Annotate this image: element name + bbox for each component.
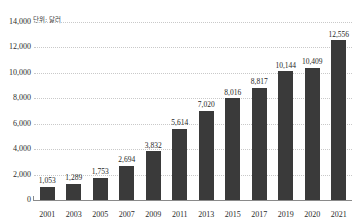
x-slot: 2009 (140, 203, 167, 221)
y-tick-label: 0 (27, 196, 31, 204)
bar[interactable] (40, 187, 55, 200)
bar-slot: 1,289 (61, 22, 88, 200)
bar-value-label: 1,053 (39, 177, 56, 185)
x-tick-label: 2011 (172, 210, 188, 219)
bar[interactable] (119, 166, 134, 200)
x-axis: 2001200320052007200920112013201520172019… (34, 203, 352, 221)
bar-value-label: 7,020 (198, 101, 215, 109)
bar[interactable] (225, 98, 240, 200)
x-slot: 2020 (299, 203, 326, 221)
x-tick-label: 2013 (198, 210, 214, 219)
bar-slot: 1,053 (34, 22, 61, 200)
x-slot: 2005 (87, 203, 114, 221)
bars-container: 1,0531,2891,7532,6943,8325,6147,0208,016… (34, 22, 352, 200)
y-tick-label: 12,000 (9, 43, 31, 51)
bar-slot: 8,016 (220, 22, 247, 200)
y-axis-line (33, 196, 34, 201)
x-slot: 2001 (34, 203, 61, 221)
bar-value-label: 8,817 (251, 78, 268, 86)
bar-value-label: 10,409 (302, 58, 323, 66)
bar-slot: 10,409 (299, 22, 326, 200)
bar-slot: 7,020 (193, 22, 220, 200)
bar-slot: 10,144 (273, 22, 300, 200)
bar[interactable] (278, 71, 293, 200)
x-tick-label: 2003 (66, 210, 82, 219)
bar-value-label: 12,556 (328, 31, 349, 39)
x-slot: 2013 (193, 203, 220, 221)
x-tick-label: 2007 (119, 210, 135, 219)
bar-value-label: 1,289 (65, 174, 82, 182)
bar[interactable] (172, 129, 187, 200)
bar-slot: 12,556 (326, 22, 353, 200)
y-tick-label: 6,000 (13, 120, 31, 128)
y-axis: 02,0004,0006,0008,00010,00012,00014,000 (0, 22, 31, 200)
bar-value-label: 10,144 (275, 62, 296, 70)
bar-value-label: 2,694 (118, 156, 135, 164)
bar[interactable] (66, 184, 81, 200)
x-slot: 2019 (273, 203, 300, 221)
bar-slot: 3,832 (140, 22, 167, 200)
x-tick-label: 2021 (331, 210, 347, 219)
bar-slot: 5,614 (167, 22, 194, 200)
x-tick-label: 2015 (225, 210, 241, 219)
y-tick-label: 14,000 (9, 18, 31, 26)
y-tick-label: 2,000 (13, 171, 31, 179)
y-tick-label: 10,000 (9, 69, 31, 77)
x-tick-label: 2009 (145, 210, 161, 219)
bar-value-label: 8,016 (224, 89, 241, 97)
x-tick-label: 2019 (278, 210, 294, 219)
bar[interactable] (252, 88, 267, 200)
x-slot: 2011 (167, 203, 194, 221)
bar-slot: 8,817 (246, 22, 273, 200)
bar-slot: 2,694 (114, 22, 141, 200)
y-tick-label: 4,000 (13, 145, 31, 153)
x-tick-label: 2005 (92, 210, 108, 219)
bar-value-label: 3,832 (145, 142, 162, 150)
x-tick-label: 2001 (39, 210, 55, 219)
x-slot: 2003 (61, 203, 88, 221)
plot-area: 1,0531,2891,7532,6943,8325,6147,0208,016… (34, 22, 352, 200)
bar[interactable] (199, 111, 214, 200)
bar-slot: 1,753 (87, 22, 114, 200)
bar[interactable] (305, 68, 320, 200)
bar-value-label: 5,614 (171, 119, 188, 127)
bar[interactable] (331, 40, 346, 200)
bar[interactable] (93, 178, 108, 200)
x-slot: 2021 (326, 203, 353, 221)
axis-baseline (34, 200, 352, 201)
bar-chart: 단위: 달러 02,0004,0006,0008,00010,00012,000… (0, 0, 359, 223)
x-tick-label: 2017 (251, 210, 267, 219)
x-slot: 2007 (114, 203, 141, 221)
bar-value-label: 1,753 (92, 168, 109, 176)
x-slot: 2015 (220, 203, 247, 221)
bar[interactable] (146, 151, 161, 200)
x-tick-label: 2020 (304, 210, 320, 219)
x-slot: 2017 (246, 203, 273, 221)
y-tick-label: 8,000 (13, 94, 31, 102)
